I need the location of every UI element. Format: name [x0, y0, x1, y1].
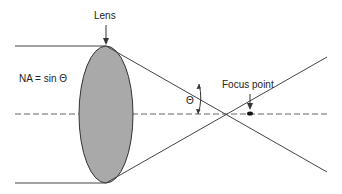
angle-arrowhead-top: [197, 84, 202, 89]
lens-pointer-arrow-icon: [103, 38, 109, 45]
converging-ray-top: [106, 46, 327, 172]
lens-label: Lens: [94, 10, 116, 21]
angle-arrowhead-bottom: [196, 109, 201, 114]
converging-ray-bottom: [106, 57, 327, 183]
focus-pointer-arrow-icon: [247, 103, 253, 110]
focus-point-label: Focus point: [222, 79, 274, 90]
lens-shape: [79, 46, 133, 183]
focus-point-dot: [247, 112, 253, 116]
optics-diagram: [0, 0, 342, 194]
na-formula-label: NA = sin Θ: [19, 73, 67, 84]
angle-theta-label: Θ: [186, 95, 194, 106]
